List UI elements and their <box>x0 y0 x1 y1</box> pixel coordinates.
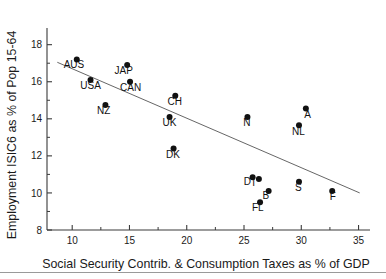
data-point-label-can: CAN <box>120 82 141 93</box>
y-axis-title: Employment ISIC6 as % of Pop 15-64 <box>5 31 19 240</box>
y-tick-label: 14 <box>31 113 43 124</box>
data-point-label-nz: NZ <box>97 105 110 116</box>
chart-canvas: 101520253035 81012141618 AUSUSANZJAPCANC… <box>0 0 386 279</box>
data-point-label-usa: USA <box>80 80 101 91</box>
data-point-label-b: B <box>262 190 269 201</box>
x-axis-title: Social Security Contrib. & Consumption T… <box>42 257 370 271</box>
y-tick-label: 16 <box>31 76 43 87</box>
x-tick-label: 15 <box>124 235 136 246</box>
x-tick-label: 30 <box>296 235 308 246</box>
data-point-label-n: N <box>243 117 250 128</box>
data-point-label-f: F <box>330 191 336 202</box>
data-point-label-aus: AUS <box>64 59 85 70</box>
data-point-label-jap: JAP <box>115 65 134 76</box>
data-point-label-s: S <box>295 182 302 193</box>
data-point-marker-i <box>256 176 262 182</box>
data-point-label-fl: FL <box>252 202 264 213</box>
x-tick-label: 25 <box>238 235 250 246</box>
data-point-label-uk: UK <box>163 117 177 128</box>
scatter-chart-figure: 101520253035 81012141618 AUSUSANZJAPCANC… <box>0 0 386 279</box>
chart-background <box>0 0 386 279</box>
x-tick-label: 10 <box>67 235 79 246</box>
x-tick-label: 20 <box>181 235 193 246</box>
data-point-label-nl: NL <box>292 126 305 137</box>
data-point-label-a: A <box>304 109 311 120</box>
y-tick-label: 8 <box>36 225 42 236</box>
data-point-label-dk: DK <box>166 149 180 160</box>
data-point-label-ch: CH <box>167 96 181 107</box>
y-tick-label: 18 <box>31 39 43 50</box>
data-point-label-i: I <box>252 177 255 188</box>
data-point-label-d: D <box>244 176 251 187</box>
x-tick-label: 35 <box>353 235 365 246</box>
y-tick-label: 10 <box>31 188 43 199</box>
y-tick-label: 12 <box>31 150 43 161</box>
